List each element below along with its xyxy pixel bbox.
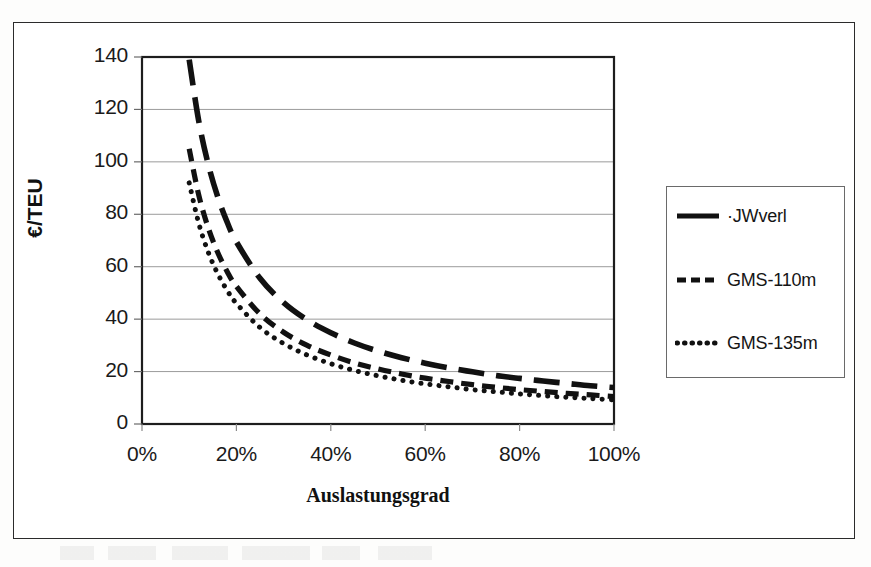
legend-swatch-dot-icon xyxy=(675,334,721,352)
legend-label-gms-135m: GMS-135m xyxy=(727,333,817,354)
y-tick-label-100: 100 xyxy=(54,148,128,172)
legend-label-gms-110m: GMS-110m xyxy=(727,270,816,291)
scanned-page: €/TEU Auslastungsgrad 020406080100120140… xyxy=(0,0,871,567)
legend-swatch-long-dash-icon xyxy=(675,207,721,225)
y-tick-label-80: 80 xyxy=(54,200,128,224)
x-axis-title: Auslastungsgrad xyxy=(142,484,614,507)
legend-item-jwverl: ·JWverl xyxy=(675,203,843,229)
x-tick-label-0: 0% xyxy=(99,442,185,466)
legend-swatch-dash-icon xyxy=(675,271,721,289)
y-tick-label-60: 60 xyxy=(54,253,128,277)
y-axis-title: €/TEU xyxy=(23,153,47,263)
x-tick-label-40: 40% xyxy=(288,442,374,466)
y-tick-label-120: 120 xyxy=(54,95,128,119)
legend-item-gms-110m: GMS-110m xyxy=(675,267,843,293)
y-tick-label-40: 40 xyxy=(54,305,128,329)
y-tick-label-0: 0 xyxy=(54,410,128,434)
x-tick-label-60: 60% xyxy=(382,442,468,466)
legend-item-gms-135m: GMS-135m xyxy=(675,330,843,356)
x-tick-label-100: 100% xyxy=(571,442,657,466)
x-tick-label-20: 20% xyxy=(193,442,279,466)
legend-label-jwverl: ·JWverl xyxy=(727,206,787,227)
scan-artifact xyxy=(60,546,480,560)
y-tick-label-20: 20 xyxy=(54,358,128,382)
y-tick-label-140: 140 xyxy=(54,43,128,67)
x-tick-label-80: 80% xyxy=(477,442,563,466)
chart-legend: ·JWverl GMS-110m GMS-135m xyxy=(666,186,845,378)
